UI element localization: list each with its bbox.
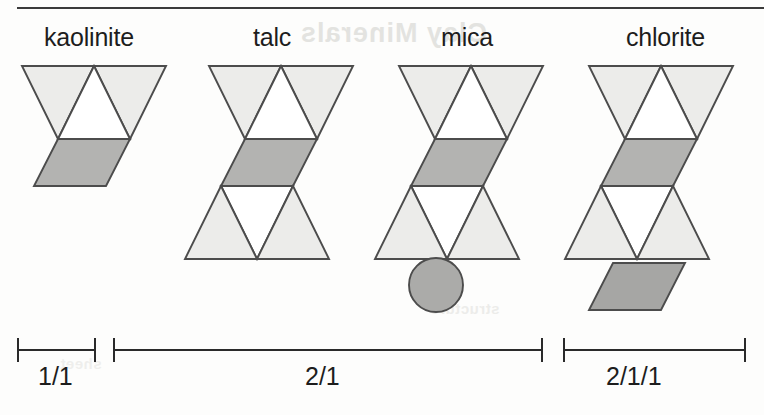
scalebar-2-1-tick-right: [541, 338, 543, 362]
mica-tetrahedral-sheet-lower: [375, 186, 519, 259]
chlorite-interlayer-hydroxide-sheet: [589, 263, 685, 310]
structure-chlorite: [565, 66, 733, 310]
structure-talc: [185, 66, 353, 259]
mica-octahedral-sheet: [411, 139, 507, 186]
mica-tetrahedral-sheet-upper: [399, 66, 543, 139]
ratio-label-2-1: 2/1: [305, 362, 340, 391]
structure-kaolinite: [22, 66, 166, 186]
kaolinite-octahedral-sheet: [34, 139, 130, 186]
scalebar-1-1: [17, 338, 96, 362]
kaolinite-tetrahedral-sheet: [22, 66, 166, 139]
scalebar-2-1-1-line: [563, 349, 746, 351]
talc-octahedral-sheet: [221, 139, 317, 186]
talc-tetrahedral-sheet-upper: [209, 66, 353, 139]
structure-mica: [375, 66, 543, 312]
chlorite-tetrahedral-sheet-lower: [565, 186, 709, 259]
scalebar-1-1-line: [17, 349, 96, 351]
scalebar-1-1-tick-right: [94, 338, 96, 362]
scalebar-2-1-line: [113, 349, 543, 351]
talc-tetrahedral-sheet-lower: [185, 186, 329, 259]
chlorite-tetrahedral-sheet-upper: [589, 66, 733, 139]
scalebar-2-1-1: [563, 338, 746, 362]
scalebar-2-1-1-tick-right: [744, 338, 746, 362]
mica-interlayer-cation: [409, 258, 463, 312]
scalebar-2-1: [113, 338, 543, 362]
figure-root: Clay Minerals structure sheet kaolinite …: [0, 0, 764, 415]
ratio-label-1-1: 1/1: [38, 362, 73, 391]
ratio-label-2-1-1: 2/1/1: [606, 362, 662, 391]
chlorite-octahedral-sheet: [601, 139, 697, 186]
